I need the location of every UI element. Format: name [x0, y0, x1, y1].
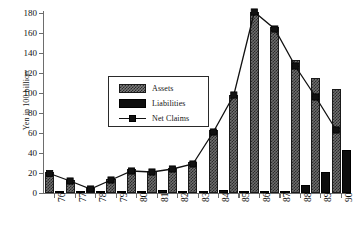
net-claims-marker [292, 63, 298, 69]
x-tick-label: 80 [140, 193, 150, 203]
x-tick-label: 81 [161, 193, 171, 203]
x-tick [279, 193, 280, 198]
net-claims-marker [128, 168, 134, 174]
legend-label-net-claims: Net Claims [152, 114, 189, 123]
y-tick-label: 80 [28, 109, 37, 118]
x-tick [218, 193, 219, 198]
y-axis-title: Yen in 100 billion [22, 46, 31, 156]
x-tick-label: 76 [58, 193, 68, 203]
y-tick-label: 180 [24, 9, 38, 18]
net-claims-marker [272, 26, 278, 32]
assets-swatch-icon [119, 84, 146, 93]
x-tick-label: 83 [202, 193, 212, 203]
x-tick-label: 77 [79, 193, 89, 203]
y-tick-label: 120 [24, 69, 38, 78]
x-tick [300, 193, 301, 198]
x-tick [259, 193, 260, 198]
y-tick-label: 0 [33, 189, 38, 198]
y-tick-label: 40 [28, 149, 37, 158]
x-tick [95, 193, 96, 198]
x-tick-label: 85 [242, 193, 252, 203]
net-claims-swatch-icon [119, 114, 146, 123]
net-claims-marker [210, 129, 216, 135]
x-tick [198, 193, 199, 198]
legend-item-net-claims: Net Claims [109, 111, 208, 126]
y-tick-label: 160 [24, 29, 38, 38]
x-tick-label: 82 [181, 193, 191, 203]
x-tick-label: 79 [120, 193, 130, 203]
x-tick-label: 86 [263, 193, 273, 203]
legend-label-liabilities: Liabilities [152, 99, 186, 108]
net-claims-marker [333, 127, 339, 133]
x-tick-label: 84 [222, 193, 232, 203]
x-tick [238, 193, 239, 198]
x-tick [116, 193, 117, 198]
net-claims-marker [87, 186, 93, 192]
y-tick-label: 100 [24, 89, 38, 98]
net-claims-marker [47, 170, 53, 176]
x-tick-label: 88 [304, 193, 314, 203]
legend-label-assets: Assets [152, 84, 174, 93]
x-tick [136, 193, 137, 198]
x-tick [320, 193, 321, 198]
x-tick [341, 193, 342, 198]
y-tick-label: 20 [28, 169, 37, 178]
legend-item-assets: Assets [109, 81, 208, 96]
net-claims-marker [313, 94, 319, 100]
x-tick [54, 193, 55, 198]
net-claims-marker [190, 161, 196, 167]
net-claims-marker [231, 92, 237, 98]
x-tick-label: 87 [283, 193, 293, 203]
x-tick-label: 89 [324, 193, 334, 203]
x-tick [75, 193, 76, 198]
net-claims-marker [149, 169, 155, 175]
liabilities-swatch-icon [119, 99, 146, 108]
legend-item-liabilities: Liabilities [109, 96, 208, 111]
chart-legend: Assets Liabilities Net Claims [108, 76, 209, 127]
x-tick-label: 78 [99, 193, 109, 203]
net-claims-marker [251, 9, 257, 15]
net-claims-marker [108, 177, 114, 183]
y-tick-label: 140 [24, 49, 38, 58]
net-claims-marker [169, 166, 175, 172]
y-tick-label: 60 [28, 129, 37, 138]
x-tick-label: 90 [345, 193, 355, 203]
chart-container: Yen in 100 billion 020406080100120140160… [0, 0, 361, 236]
y-tick [39, 193, 44, 194]
x-tick [177, 193, 178, 198]
x-tick [157, 193, 158, 198]
net-claims-marker [67, 178, 73, 184]
